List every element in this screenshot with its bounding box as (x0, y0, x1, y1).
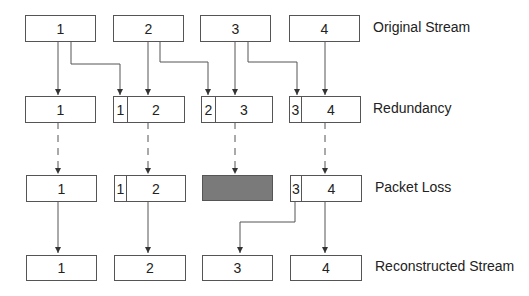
reconstructed-packet-4: 4 (290, 255, 362, 281)
original-packet-2: 2 (113, 15, 184, 42)
redundancy-packet-3: 2 3 (201, 96, 273, 123)
row-label-redundancy: Redundancy (373, 100, 452, 116)
redundancy-packet-1: 1 (25, 96, 96, 123)
loss-packet-1: 1 (26, 175, 97, 202)
redundant-copy: 1 (115, 176, 127, 201)
original-packet-3: 3 (200, 15, 271, 42)
redundant-copy: 3 (290, 97, 302, 122)
loss-packet-4: 3 4 (290, 175, 362, 202)
loss-packet-2: 1 2 (114, 175, 186, 202)
packet-number: 4 (321, 21, 329, 37)
lost-packet-3 (202, 175, 273, 201)
packet-number: 4 (327, 102, 335, 118)
reconstructed-packet-3: 3 (202, 255, 273, 281)
packet-number: 4 (322, 260, 330, 276)
reconstructed-packet-2: 2 (114, 255, 186, 281)
row-label-reconstructed-stream: Reconstructed Stream (375, 258, 514, 274)
packet-number: 1 (58, 181, 66, 197)
packet-number: 2 (146, 260, 154, 276)
reconstructed-packet-1: 1 (26, 255, 97, 281)
packet-number: 3 (240, 102, 248, 118)
packet-number: 2 (145, 21, 153, 37)
packet-number: 1 (57, 21, 65, 37)
redundant-copy: 1 (114, 97, 128, 122)
redundancy-packet-4: 3 4 (289, 96, 361, 123)
redundancy-packet-2: 1 2 (113, 96, 185, 123)
connector-lines (0, 0, 529, 296)
packet-number: 2 (152, 181, 160, 197)
packet-number: 2 (152, 102, 160, 118)
redundant-copy: 2 (202, 97, 216, 122)
packet-number: 1 (57, 102, 65, 118)
packet-number: 4 (328, 181, 336, 197)
row-label-packet-loss: Packet Loss (375, 179, 451, 195)
original-packet-1: 1 (25, 15, 96, 42)
packet-number: 3 (232, 21, 240, 37)
redundant-copy: 3 (291, 176, 302, 201)
row-label-original-stream: Original Stream (373, 19, 470, 35)
packet-number: 3 (234, 260, 242, 276)
original-packet-4: 4 (289, 15, 360, 42)
packet-number: 1 (58, 260, 66, 276)
